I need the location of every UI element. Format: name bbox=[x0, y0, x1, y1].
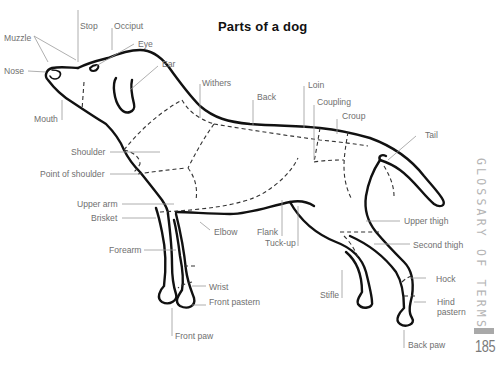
label-hind-pastern-line1: Hind bbox=[437, 297, 455, 307]
label-coupling: Coupling bbox=[317, 97, 351, 107]
label-front-pastern: Front pastern bbox=[209, 297, 260, 307]
label-withers: Withers bbox=[202, 78, 231, 88]
label-mouth: Mouth bbox=[34, 114, 58, 124]
dog-outline bbox=[46, 50, 444, 326]
label-tuck-up: Tuck-up bbox=[265, 238, 296, 248]
label-second-thigh: Second thigh bbox=[413, 240, 463, 250]
label-stifle: Stifle bbox=[320, 290, 339, 300]
label-ear: Ear bbox=[162, 59, 175, 69]
region-boundaries bbox=[82, 82, 416, 296]
label-loin: Loin bbox=[308, 80, 324, 90]
page-number: 185 bbox=[475, 337, 495, 357]
label-upper-arm: Upper arm bbox=[77, 199, 118, 209]
label-elbow: Elbow bbox=[214, 227, 237, 237]
diagram-title: Parts of a dog bbox=[218, 19, 307, 34]
label-front-paw: Front paw bbox=[175, 331, 213, 341]
label-shoulder: Shoulder bbox=[71, 147, 105, 157]
label-croup: Croup bbox=[342, 111, 365, 121]
label-wrist: Wrist bbox=[209, 282, 228, 292]
label-back-paw: Back paw bbox=[408, 340, 445, 350]
dog-illustration bbox=[0, 0, 498, 368]
label-upper-thigh: Upper thigh bbox=[404, 216, 448, 226]
page-marker-bar bbox=[474, 328, 494, 334]
dog-anatomy-diagram: Parts of a dog Stop Occiput Muzzle Eye N… bbox=[0, 0, 498, 368]
label-muzzle: Muzzle bbox=[4, 33, 31, 43]
side-heading: GLOSSARY OF TERMS bbox=[474, 158, 488, 328]
label-back: Back bbox=[257, 92, 276, 102]
label-hock: Hock bbox=[436, 274, 456, 284]
label-occiput: Occiput bbox=[114, 21, 143, 31]
label-brisket: Brisket bbox=[91, 213, 117, 223]
label-point-of-shoulder: Point of shoulder bbox=[40, 169, 105, 179]
label-stop: Stop bbox=[80, 21, 98, 31]
label-eye: Eye bbox=[138, 39, 153, 49]
side-heading-text: GLOSSARY OF TERMS bbox=[474, 158, 488, 330]
label-tail: Tail bbox=[425, 130, 438, 140]
label-hind-pastern-line2: pastern bbox=[437, 307, 466, 317]
label-nose: Nose bbox=[4, 66, 24, 76]
label-forearm: Forearm bbox=[109, 245, 141, 255]
label-flank: Flank bbox=[257, 227, 278, 237]
